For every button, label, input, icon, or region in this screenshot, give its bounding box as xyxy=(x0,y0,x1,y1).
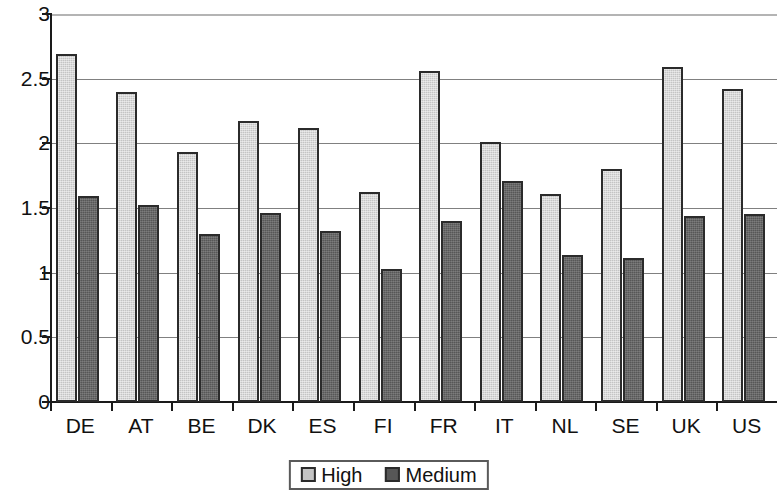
x-axis-tick-label-nl: NL xyxy=(552,415,579,436)
x-axis-tick-mark xyxy=(50,402,52,411)
y-axis-tick-mark xyxy=(42,207,50,209)
x-axis-tick-label-at: AT xyxy=(128,415,153,436)
light-gray-swatch xyxy=(300,467,315,482)
x-axis-tick-label-fi: FI xyxy=(374,415,393,436)
x-axis-tick-label-us: US xyxy=(732,415,761,436)
x-axis-tick-label-be: BE xyxy=(187,415,215,436)
x-axis-tick-mark xyxy=(414,402,416,411)
y-axis-tick-mark xyxy=(42,272,50,274)
x-axis: DEATBEDKESFIFRITNLSEUKUS xyxy=(50,0,777,493)
x-axis-tick-label-es: ES xyxy=(309,415,337,436)
x-axis-tick-mark xyxy=(292,402,294,411)
x-axis-tick-label-se: SE xyxy=(612,415,640,436)
x-axis-tick-mark xyxy=(171,402,173,411)
x-axis-tick-mark xyxy=(232,402,234,411)
legend-label: Medium xyxy=(406,465,477,485)
x-axis-tick-mark xyxy=(474,402,476,411)
x-axis-tick-mark xyxy=(535,402,537,411)
dark-gray-swatch xyxy=(385,467,400,482)
x-axis-tick-label-uk: UK xyxy=(672,415,701,436)
x-axis-tick-mark xyxy=(595,402,597,411)
x-axis-tick-mark xyxy=(656,402,658,411)
chart-legend: HighMedium xyxy=(288,460,488,490)
y-axis-tick-mark xyxy=(42,336,50,338)
legend-label: High xyxy=(321,465,362,485)
legend-item-medium[interactable]: Medium xyxy=(385,465,477,485)
bar-chart: 00.511.522.53 DEATBEDKESFIFRITNLSEUKUS H… xyxy=(0,0,777,493)
y-axis-tick-mark xyxy=(42,78,50,80)
x-axis-tick-label-de: DE xyxy=(66,415,95,436)
x-axis-tick-mark xyxy=(111,402,113,411)
x-axis-tick-label-dk: DK xyxy=(247,415,276,436)
x-axis-tick-label-fr: FR xyxy=(430,415,458,436)
x-axis-tick-label-it: IT xyxy=(495,415,514,436)
y-axis-tick-mark xyxy=(42,142,50,144)
x-axis-tick-mark xyxy=(353,402,355,411)
x-axis-tick-mark xyxy=(716,402,718,411)
y-axis-tick-mark xyxy=(42,13,50,15)
legend-item-high[interactable]: High xyxy=(300,465,362,485)
y-axis-tick-mark xyxy=(42,401,50,403)
